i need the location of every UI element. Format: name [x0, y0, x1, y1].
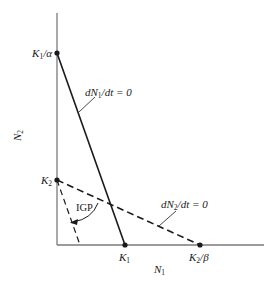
label-n1-isocline: dN1/dt = 0 [85, 86, 132, 100]
label-k1-over-alpha: K1/α [31, 47, 52, 61]
label-k2-over-beta: K2/β [188, 251, 209, 265]
y-axis-label: N2 [11, 130, 25, 142]
point-k2 [54, 177, 59, 182]
n1-isocline [57, 53, 125, 245]
n2-label-leader [159, 211, 176, 226]
point-k1 [122, 242, 127, 247]
x-axis-label: N1 [153, 263, 165, 277]
label-igp: IGP [76, 202, 93, 213]
n1-label-leader [79, 97, 95, 112]
label-n2-isocline: dN2/dt = 0 [161, 198, 208, 212]
point-k1-over-alpha [54, 50, 59, 55]
competition-isocline-diagram: K1/α K2 K1 K2/β dN1/dt = 0 dN2/dt = 0 IG… [0, 0, 270, 283]
label-k1: K1 [118, 251, 130, 265]
point-k2-over-beta [197, 242, 202, 247]
label-k2: K2 [40, 174, 52, 188]
